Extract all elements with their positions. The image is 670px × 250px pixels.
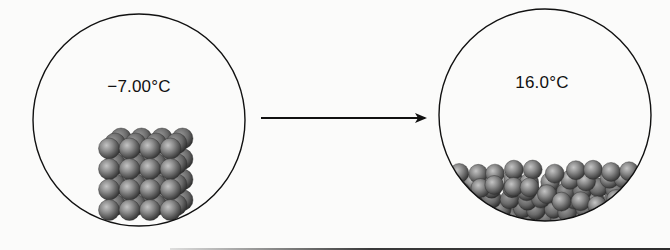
particle-sphere <box>460 198 479 217</box>
particle-sphere <box>99 159 120 180</box>
particle-sphere <box>160 200 181 221</box>
particle-sphere <box>119 159 140 180</box>
particle-sphere <box>552 192 571 211</box>
liquid-temperature-label: 16.0°C <box>515 73 568 93</box>
particle-sphere <box>468 209 487 228</box>
phase-change-diagram: −7.00°C 16.0°C <box>0 0 670 250</box>
particle-sphere <box>607 202 626 221</box>
particle-sphere <box>624 200 643 219</box>
particle-sphere <box>571 192 590 211</box>
particle-sphere <box>119 179 140 200</box>
particle-sphere <box>160 138 181 159</box>
solid-state-container <box>33 14 245 226</box>
solid-temperature-label: −7.00°C <box>107 77 171 97</box>
particle-sphere <box>588 196 607 215</box>
particle-sphere <box>160 159 181 180</box>
particle-sphere <box>620 162 639 181</box>
particle-sphere <box>584 160 603 179</box>
particle-sphere <box>140 179 161 200</box>
particle-sphere <box>619 208 638 227</box>
particle-sphere <box>504 160 523 179</box>
particle-sphere <box>448 182 467 201</box>
particle-sphere <box>446 193 465 212</box>
particle-sphere <box>119 138 140 159</box>
particle-sphere <box>566 161 585 180</box>
particle-sphere <box>602 162 621 181</box>
diagram-canvas <box>0 0 670 250</box>
particle-sphere <box>545 164 564 183</box>
particle-sphere <box>99 138 120 159</box>
particle-sphere <box>140 159 161 180</box>
solid-lattice <box>99 128 194 221</box>
particle-sphere <box>618 190 637 209</box>
particle-sphere <box>520 178 539 197</box>
particle-sphere <box>99 200 120 221</box>
liquid-state-container <box>439 9 651 229</box>
particle-sphere <box>99 179 120 200</box>
particle-sphere <box>140 138 161 159</box>
particle-sphere <box>119 200 140 221</box>
particle-sphere <box>603 207 622 226</box>
particle-sphere <box>160 179 181 200</box>
particle-sphere <box>140 200 161 221</box>
particle-sphere <box>485 176 504 195</box>
particle-sphere <box>523 160 542 179</box>
particle-sphere <box>451 182 470 201</box>
